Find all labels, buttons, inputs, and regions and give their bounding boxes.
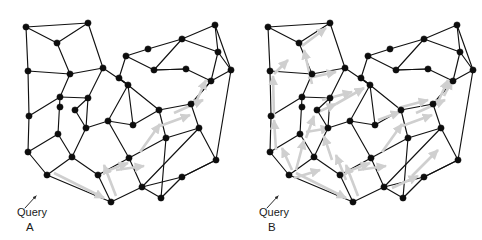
graph-node[interactable] — [25, 149, 31, 155]
graph-node[interactable] — [179, 36, 185, 42]
graph-figure-svg: QueryAQueryB — [0, 0, 482, 240]
graph-node[interactable] — [208, 78, 214, 84]
graph-node[interactable] — [105, 118, 111, 124]
graph-node[interactable] — [425, 66, 431, 72]
graph-node[interactable] — [454, 22, 460, 28]
graph-node[interactable] — [55, 131, 61, 137]
graph-node[interactable] — [421, 174, 427, 180]
graph-node[interactable] — [267, 68, 273, 74]
graph-node[interactable] — [156, 107, 162, 113]
graph-node[interactable] — [54, 40, 60, 46]
graph-node[interactable] — [430, 101, 436, 107]
graph-node[interactable] — [309, 71, 315, 77]
graph-node[interactable] — [327, 20, 333, 26]
graph-node[interactable] — [457, 49, 463, 55]
graph-node[interactable] — [67, 71, 73, 77]
panel-label-a: A — [26, 221, 34, 233]
graph-node[interactable] — [314, 107, 320, 113]
graph-node[interactable] — [286, 172, 292, 178]
graph-node[interactable] — [95, 172, 101, 178]
graph-node[interactable] — [365, 53, 371, 59]
graph-node[interactable] — [44, 172, 50, 178]
query-label: Query — [259, 206, 289, 218]
graph-node[interactable] — [347, 118, 353, 124]
graph-node[interactable] — [387, 46, 393, 52]
graph-node[interactable] — [57, 104, 63, 110]
graph-node[interactable] — [297, 131, 303, 137]
graph-node[interactable] — [299, 94, 305, 100]
graph-node[interactable] — [26, 113, 32, 119]
graph-node[interactable] — [325, 125, 331, 131]
graph-node[interactable] — [179, 174, 185, 180]
graph-node[interactable] — [85, 95, 91, 101]
graph-node[interactable] — [400, 195, 406, 201]
graph-node[interactable] — [405, 135, 411, 141]
graph-node[interactable] — [83, 125, 89, 131]
graph-node[interactable] — [23, 24, 29, 30]
graph-node[interactable] — [108, 199, 114, 205]
graph-node[interactable] — [145, 46, 151, 52]
graph-node[interactable] — [342, 65, 348, 71]
graph-node[interactable] — [327, 95, 333, 101]
graph-node[interactable] — [268, 113, 274, 119]
graph-node[interactable] — [126, 155, 132, 161]
figure-background — [0, 0, 482, 240]
graph-node[interactable] — [100, 65, 106, 71]
graph-node[interactable] — [296, 40, 302, 46]
graph-node[interactable] — [213, 157, 219, 163]
graph-node[interactable] — [188, 101, 194, 107]
graph-node[interactable] — [69, 154, 75, 160]
graph-node[interactable] — [393, 67, 399, 73]
graph-node[interactable] — [116, 75, 122, 81]
graph-node[interactable] — [158, 195, 164, 201]
graph-node[interactable] — [183, 66, 189, 72]
graph-node[interactable] — [123, 53, 129, 59]
graph-node[interactable] — [57, 94, 63, 100]
graph-node[interactable] — [265, 24, 271, 30]
figure-container: QueryAQueryB — [0, 0, 482, 240]
graph-node[interactable] — [212, 22, 218, 28]
graph-node[interactable] — [130, 122, 136, 128]
graph-node[interactable] — [368, 155, 374, 161]
graph-node[interactable] — [350, 199, 356, 205]
query-label: Query — [17, 206, 47, 218]
traversal-arrow — [273, 76, 274, 118]
graph-node[interactable] — [311, 154, 317, 160]
panel-label-b: B — [268, 221, 276, 233]
graph-node[interactable] — [125, 82, 131, 88]
graph-node[interactable] — [381, 184, 387, 190]
graph-node[interactable] — [367, 82, 373, 88]
graph-node[interactable] — [455, 157, 461, 163]
graph-node[interactable] — [421, 36, 427, 42]
graph-node[interactable] — [215, 49, 221, 55]
graph-node[interactable] — [151, 67, 157, 73]
graph-node[interactable] — [299, 104, 305, 110]
graph-node[interactable] — [470, 67, 476, 73]
graph-node[interactable] — [267, 149, 273, 155]
graph-node[interactable] — [139, 184, 145, 190]
graph-node[interactable] — [196, 125, 202, 131]
graph-node[interactable] — [450, 78, 456, 84]
graph-node[interactable] — [25, 68, 31, 74]
graph-node[interactable] — [163, 135, 169, 141]
graph-node[interactable] — [358, 75, 364, 81]
graph-node[interactable] — [72, 107, 78, 113]
graph-node[interactable] — [398, 107, 404, 113]
graph-node[interactable] — [228, 67, 234, 73]
graph-node[interactable] — [438, 125, 444, 131]
graph-node[interactable] — [85, 20, 91, 26]
graph-node[interactable] — [372, 122, 378, 128]
graph-node[interactable] — [337, 172, 343, 178]
